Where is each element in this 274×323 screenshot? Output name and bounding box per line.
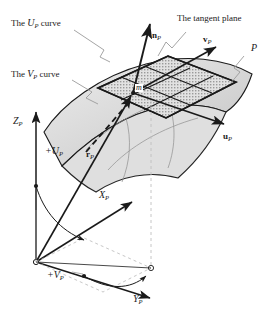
- v-label-leader: [0, 0, 274, 323]
- figure-canvas: The UP curve The VP curve The tangent pl…: [0, 0, 274, 323]
